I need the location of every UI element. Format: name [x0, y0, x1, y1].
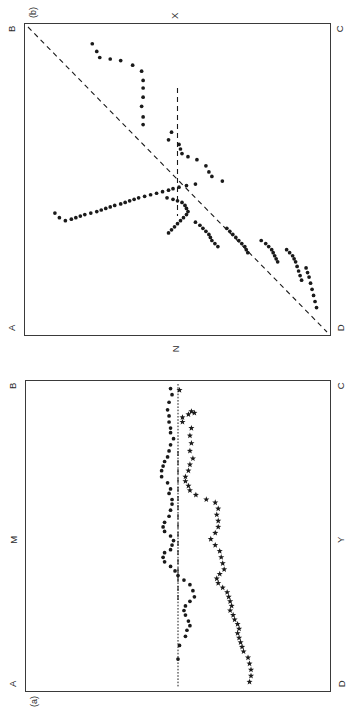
data-point	[185, 467, 191, 473]
data-point	[188, 583, 192, 587]
data-point	[123, 201, 127, 205]
data-point	[185, 213, 189, 217]
data-point	[172, 437, 176, 441]
data-point	[166, 455, 170, 459]
data-point	[246, 251, 250, 255]
data-point	[182, 216, 186, 220]
data-point	[53, 211, 57, 215]
data-point	[188, 624, 192, 628]
data-point	[194, 182, 198, 186]
data-point	[169, 534, 173, 538]
panel-a-corner-bottom-left: A	[8, 681, 18, 687]
data-point	[230, 612, 236, 618]
data-point	[176, 199, 180, 203]
data-point	[169, 387, 173, 391]
data-point	[184, 634, 188, 638]
data-point	[99, 208, 103, 212]
data-point	[231, 233, 235, 237]
data-point	[170, 228, 174, 232]
data-point	[132, 197, 136, 201]
panel-a-axis-label-y: Y	[336, 537, 346, 543]
data-point	[212, 530, 218, 536]
data-point	[78, 214, 82, 218]
data-point	[235, 621, 241, 627]
series-trajectory	[53, 42, 318, 310]
data-point	[173, 225, 177, 229]
data-point	[186, 155, 190, 159]
data-point	[304, 266, 308, 270]
data-point	[195, 158, 199, 162]
data-point	[104, 207, 108, 211]
panel-a-plot-area	[25, 380, 331, 692]
data-point	[167, 492, 171, 496]
panel-b-corner-bottom-left: A	[7, 325, 17, 331]
data-point	[176, 387, 182, 393]
data-point	[227, 598, 233, 604]
data-point	[187, 448, 193, 454]
data-point	[214, 512, 220, 518]
data-point	[141, 123, 145, 127]
data-point	[221, 179, 225, 183]
data-point	[235, 630, 241, 636]
data-point	[64, 219, 68, 223]
data-point	[241, 648, 247, 654]
data-point	[216, 245, 220, 249]
data-point	[312, 294, 316, 298]
data-point	[309, 281, 313, 285]
data-point	[170, 498, 174, 502]
data-point	[169, 548, 173, 552]
data-point	[267, 245, 271, 249]
data-point	[163, 560, 167, 564]
data-point	[167, 400, 171, 404]
data-point	[237, 239, 241, 243]
data-point	[182, 478, 188, 484]
data-point	[225, 226, 229, 230]
data-point	[214, 575, 220, 581]
data-point	[178, 644, 182, 648]
data-point	[163, 551, 167, 555]
data-point	[161, 555, 165, 559]
data-point	[119, 202, 123, 206]
data-point	[167, 420, 171, 424]
data-point	[179, 219, 183, 223]
data-point	[141, 95, 145, 99]
data-point	[137, 196, 141, 200]
data-point	[170, 393, 174, 397]
data-point	[95, 50, 99, 54]
data-point	[239, 644, 245, 650]
data-point	[141, 115, 145, 119]
data-point	[236, 626, 242, 632]
data-point	[215, 524, 221, 530]
data-point	[187, 487, 193, 493]
panel-a-corner-bottom-right: D	[337, 680, 347, 687]
data-point	[163, 530, 167, 534]
data-point	[184, 613, 188, 617]
data-point	[246, 679, 252, 685]
data-point	[141, 79, 145, 83]
data-point	[182, 609, 186, 613]
panel-b-corner-bottom-right: D	[336, 324, 346, 331]
data-point	[74, 216, 78, 220]
data-point	[140, 69, 144, 73]
figure-canvas: (b) B C A D X N (a) B C A D M Y	[0, 0, 355, 711]
panel-b-plot-area	[24, 23, 331, 336]
data-point	[246, 660, 252, 666]
data-point	[259, 239, 263, 243]
panel-a	[25, 380, 331, 692]
data-point	[313, 300, 317, 304]
panel-b-corner-top-right: C	[335, 25, 345, 32]
data-point	[229, 603, 235, 609]
data-point	[113, 204, 117, 208]
data-point	[185, 483, 191, 489]
panel-a-corner-top-right: C	[336, 382, 346, 389]
data-point	[224, 589, 230, 595]
data-point	[188, 425, 194, 431]
data-point	[187, 461, 193, 467]
data-point	[163, 460, 167, 464]
data-point	[190, 455, 196, 461]
data-point	[140, 104, 144, 108]
data-point	[310, 287, 314, 291]
data-point	[221, 566, 227, 572]
data-point	[70, 217, 74, 221]
data-point	[173, 569, 177, 573]
